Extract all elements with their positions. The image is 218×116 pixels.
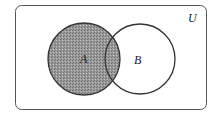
venn-diagram: U A B <box>0 0 218 116</box>
venn-graphic <box>0 0 218 116</box>
universe-label: U <box>188 12 197 24</box>
set-b-label: B <box>134 54 141 66</box>
set-a-label: A <box>80 53 87 65</box>
